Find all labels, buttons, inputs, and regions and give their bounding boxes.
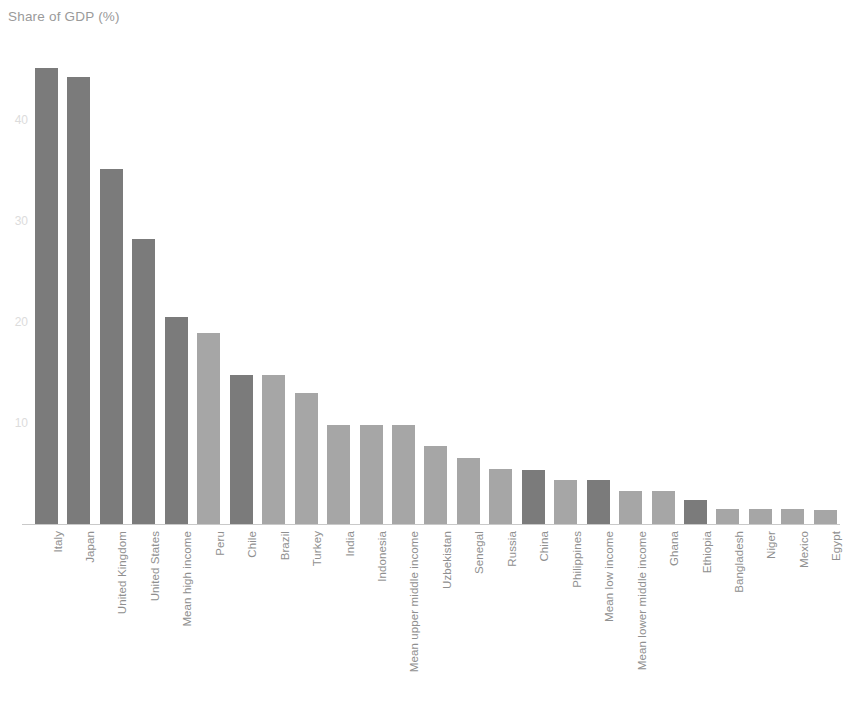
x-axis-tick-label: Peru [214,531,226,556]
x-axis-tick-labels: ItalyJapanUnited KingdomUnited StatesMea… [0,525,846,706]
bar [522,470,545,524]
bar [457,458,480,524]
x-axis-tick-label: Uzbekistan [441,531,453,589]
bar [554,480,577,524]
x-axis-tick-label: United States [149,531,161,601]
bar-chart: Share of GDP (%) 10203040 ItalyJapanUnit… [0,0,846,706]
x-axis-tick-label: Mexico [798,531,810,568]
bar [197,333,220,524]
x-axis-tick-label: Russia [506,531,518,567]
x-axis-tick-label: Senegal [473,531,485,574]
bar [327,425,350,524]
bar [165,317,188,524]
bar [132,239,155,524]
x-axis-tick-label: Egypt [830,531,842,561]
x-axis-tick-label: Ghana [668,531,680,566]
bar [360,425,383,524]
bar [392,425,415,524]
x-axis-tick-label: China [538,531,550,562]
x-axis-tick-label: Mean upper middle income [408,531,420,672]
x-axis-tick-label: Japan [84,531,96,563]
bar [716,509,739,524]
x-axis-tick-label: Philippines [571,531,583,588]
bar [587,480,610,524]
x-axis-tick-label: Chile [246,531,258,558]
x-axis-tick-label: Italy [52,531,64,553]
bar [67,77,90,524]
x-axis-tick-label: Brazil [279,531,291,560]
bar [100,169,123,524]
x-axis-tick-label: Mean high income [181,531,193,627]
bar [295,393,318,524]
x-axis-tick-label: Niger [765,531,777,559]
bar [652,491,675,524]
x-axis-tick-label: Ethiopia [701,531,713,573]
bar [814,510,837,524]
x-axis-tick-label: Turkey [311,531,323,566]
x-axis-tick-label: Indonesia [376,531,388,582]
x-axis-tick-label: Bangladesh [733,531,745,593]
bar [262,375,285,524]
plot-area: 10203040 [0,0,846,525]
x-axis-tick-label: Mean lower middle income [636,531,648,670]
bar [619,491,642,524]
bar [230,375,253,524]
bar [35,68,58,524]
x-axis-tick-label: United Kingdom [116,531,128,614]
bar [424,446,447,524]
bar [684,500,707,524]
x-axis-tick-label: Mean low income [603,531,615,622]
bars-layer [0,0,846,524]
bar [781,509,804,524]
bar [749,509,772,524]
x-axis-tick-label: India [344,531,356,556]
bar [489,469,512,524]
